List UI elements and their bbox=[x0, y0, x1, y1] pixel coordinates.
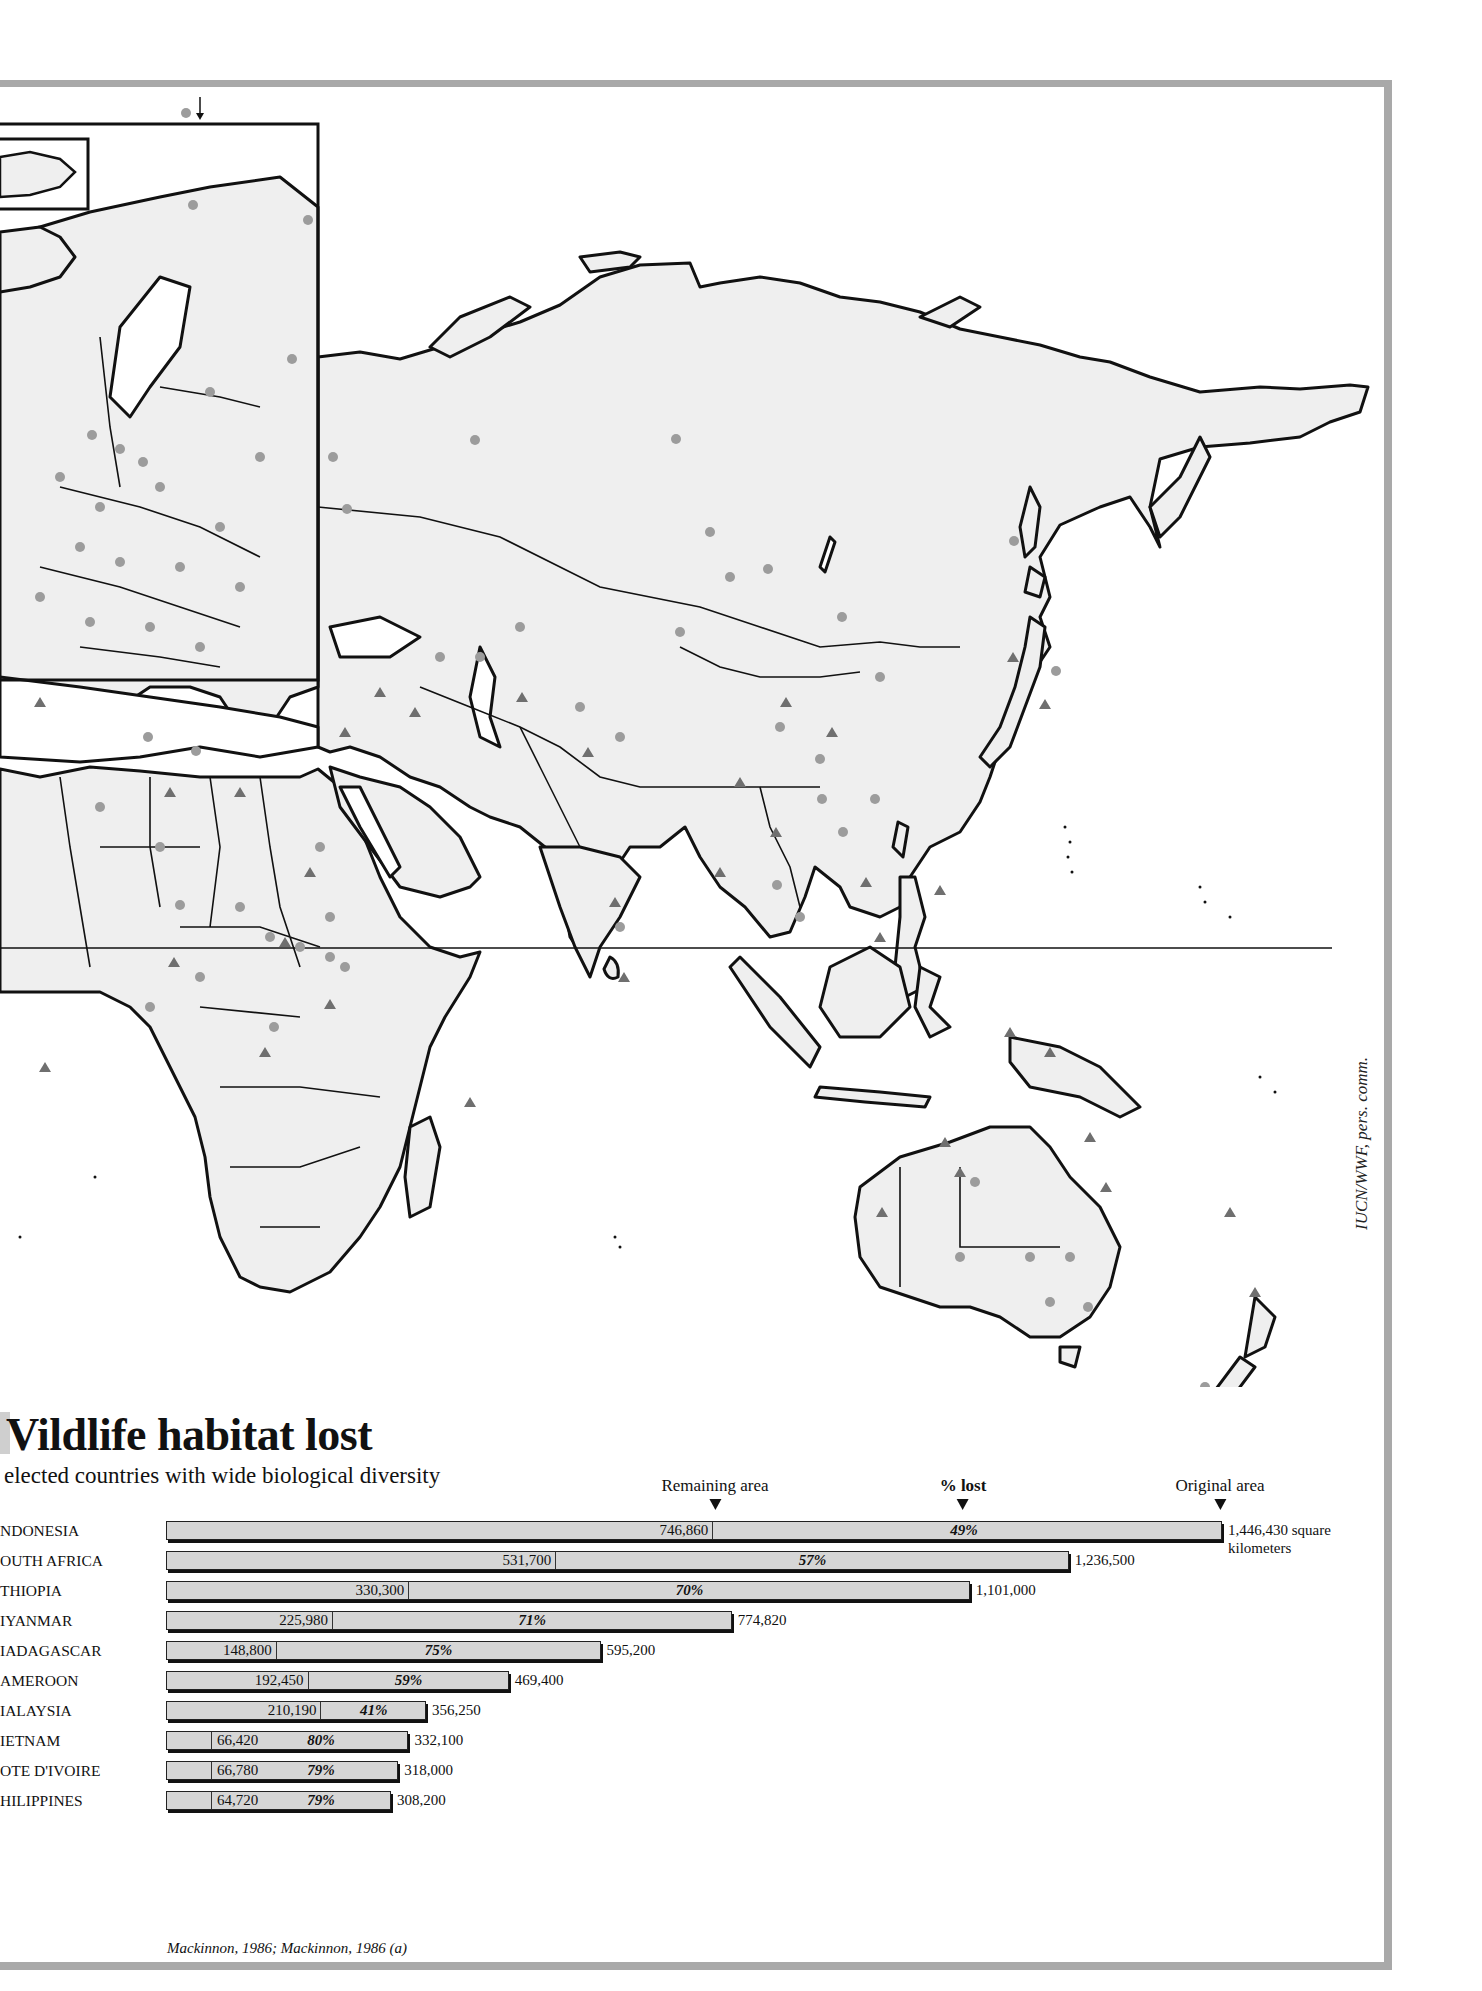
pct-lost-value: 59% bbox=[395, 1672, 423, 1689]
country-label: HILIPPINES bbox=[0, 1792, 83, 1810]
habitat-bar: 531,70057% bbox=[166, 1551, 1069, 1570]
original-area-number: 1,446,430 bbox=[1228, 1522, 1288, 1538]
frame-right-border bbox=[1384, 80, 1392, 1970]
habitat-bar: 66,42080% bbox=[166, 1731, 408, 1750]
map-credit: IUCN/WWF, pers. comm. bbox=[1352, 1057, 1372, 1230]
original-area-value: 318,000 bbox=[404, 1761, 453, 1779]
remaining-divider bbox=[712, 1522, 713, 1539]
remaining-area-value: 66,780 bbox=[217, 1762, 258, 1779]
chart-subtitle: elected countries with wide biological d… bbox=[4, 1463, 440, 1489]
original-area-value: 469,400 bbox=[515, 1671, 564, 1689]
remaining-divider bbox=[308, 1672, 309, 1689]
country-label: IADAGASCAR bbox=[0, 1642, 102, 1660]
original-area-value: 1,446,430 square bbox=[1228, 1521, 1331, 1539]
habitat-bar: 192,45059% bbox=[166, 1671, 509, 1690]
pct-lost-value: 79% bbox=[307, 1792, 335, 1809]
pct-lost-value: 57% bbox=[799, 1552, 827, 1569]
pct-lost-value: 79% bbox=[307, 1762, 335, 1779]
original-area-number: 1,236,500 bbox=[1075, 1552, 1135, 1568]
chart-title: Vildlife habitat lost bbox=[6, 1408, 372, 1461]
habitat-bar: 148,80075% bbox=[166, 1641, 601, 1660]
country-label: OUTH AFRICA bbox=[0, 1552, 103, 1570]
source-citation: Mackinnon, 1986; Mackinnon, 1986 (a) bbox=[167, 1940, 407, 1957]
madagascar-landmass bbox=[405, 1117, 440, 1217]
remaining-divider bbox=[211, 1732, 212, 1749]
original-area-value: 1,101,000 bbox=[976, 1581, 1036, 1599]
new-guinea-landmass bbox=[1010, 1037, 1140, 1117]
original-area-value: 332,100 bbox=[414, 1731, 463, 1749]
remaining-area-value: 64,720 bbox=[217, 1792, 258, 1809]
remaining-divider bbox=[332, 1612, 333, 1629]
legend-pct-lost-label: % lost bbox=[940, 1476, 987, 1495]
remaining-divider bbox=[320, 1702, 321, 1719]
original-area-number: 318,000 bbox=[404, 1762, 453, 1778]
remaining-area-value: 225,980 bbox=[279, 1612, 328, 1629]
remaining-divider bbox=[408, 1582, 409, 1599]
legend-pct-lost: % lost bbox=[940, 1476, 987, 1510]
habitat-bar: 330,30070% bbox=[166, 1581, 970, 1600]
habitat-bar: 66,78079% bbox=[166, 1761, 398, 1780]
pct-lost-value: 75% bbox=[425, 1642, 453, 1659]
original-area-number: 595,200 bbox=[607, 1642, 656, 1658]
frame-top-border bbox=[0, 80, 1392, 87]
original-area-value: 356,250 bbox=[432, 1701, 481, 1719]
country-label: NDONESIA bbox=[0, 1522, 79, 1540]
new-zealand-landmass bbox=[1245, 1297, 1275, 1357]
remaining-divider bbox=[211, 1762, 212, 1779]
frame-bottom-border bbox=[0, 1962, 1392, 1970]
habitat-bar: 210,19041% bbox=[166, 1701, 426, 1720]
original-area-number: 469,400 bbox=[515, 1672, 564, 1688]
original-area-value: 308,200 bbox=[397, 1791, 446, 1809]
unit-label-line2: kilometers bbox=[1228, 1539, 1291, 1557]
original-area-value: 774,820 bbox=[738, 1611, 787, 1629]
country-label: IALAYSIA bbox=[0, 1702, 72, 1720]
country-label: IETNAM bbox=[0, 1732, 60, 1750]
original-area-number: 308,200 bbox=[397, 1792, 446, 1808]
legend-original-area: Original area bbox=[1175, 1476, 1264, 1510]
unit-label: square bbox=[1292, 1522, 1331, 1538]
remaining-area-value: 210,190 bbox=[268, 1702, 317, 1719]
remaining-divider bbox=[555, 1552, 556, 1569]
legend-original-label: Original area bbox=[1175, 1476, 1264, 1495]
original-area-number: 332,100 bbox=[414, 1732, 463, 1748]
legend-remaining-label: Remaining area bbox=[661, 1476, 768, 1495]
country-label: IYANMAR bbox=[0, 1612, 72, 1630]
habitat-bar: 746,86049% bbox=[166, 1521, 1222, 1540]
pct-lost-value: 80% bbox=[307, 1732, 335, 1749]
habitat-bar: 225,98071% bbox=[166, 1611, 732, 1630]
remaining-area-value: 330,300 bbox=[355, 1582, 404, 1599]
original-area-value: 1,236,500 bbox=[1075, 1551, 1135, 1569]
pct-lost-value: 71% bbox=[519, 1612, 547, 1629]
australia-landmass bbox=[855, 1127, 1120, 1337]
remaining-divider bbox=[276, 1642, 277, 1659]
remaining-area-value: 746,860 bbox=[660, 1522, 709, 1539]
original-area-number: 1,101,000 bbox=[976, 1582, 1036, 1598]
original-area-number: 356,250 bbox=[432, 1702, 481, 1718]
country-label: OTE D'IVOIRE bbox=[0, 1762, 101, 1780]
protected-areas-map bbox=[0, 87, 1384, 1387]
habitat-bar: 64,72079% bbox=[166, 1791, 391, 1810]
remaining-area-value: 192,450 bbox=[255, 1672, 304, 1689]
country-label: THIOPIA bbox=[0, 1582, 62, 1600]
country-label: AMEROON bbox=[0, 1672, 78, 1690]
pct-lost-value: 70% bbox=[676, 1582, 704, 1599]
remaining-divider bbox=[211, 1792, 212, 1809]
legend-remaining-area: Remaining area bbox=[661, 1476, 768, 1510]
original-area-value: 595,200 bbox=[607, 1641, 656, 1659]
down-arrow-icon bbox=[1214, 1499, 1226, 1510]
remaining-area-value: 66,420 bbox=[217, 1732, 258, 1749]
remaining-area-value: 531,700 bbox=[502, 1552, 551, 1569]
remaining-area-value: 148,800 bbox=[223, 1642, 272, 1659]
down-arrow-icon bbox=[957, 1499, 969, 1510]
down-arrow-icon bbox=[709, 1499, 721, 1510]
original-area-number: 774,820 bbox=[738, 1612, 787, 1628]
pct-lost-value: 41% bbox=[360, 1702, 388, 1719]
india-landmass bbox=[540, 847, 640, 977]
pct-lost-value: 49% bbox=[950, 1522, 978, 1539]
